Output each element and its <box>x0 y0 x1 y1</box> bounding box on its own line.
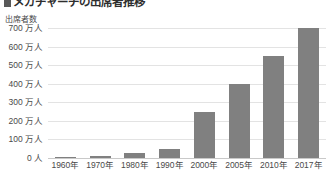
x-axis-tick-label: 2000年 <box>187 161 222 170</box>
gridline <box>48 158 326 159</box>
x-axis-tick-label: 1980年 <box>118 161 153 170</box>
bar-slot <box>194 28 215 158</box>
bar-slot <box>229 28 250 158</box>
bar[interactable] <box>298 28 319 158</box>
bar-slot <box>263 28 284 158</box>
x-axis-tick-label: 2005年 <box>222 161 257 170</box>
y-axis-tick-label: 700 万人 <box>8 24 43 33</box>
bar-slot <box>298 28 319 158</box>
y-axis-tick-label: 300 万人 <box>8 98 43 107</box>
y-axis-tick-label: 0 人 <box>27 154 43 163</box>
bar-slot <box>159 28 180 158</box>
chart-title-text: メガチャーチの出席者推移 <box>13 0 145 8</box>
bar[interactable] <box>263 56 284 158</box>
x-axis-tick-label: 1970年 <box>83 161 118 170</box>
bar[interactable] <box>159 149 180 158</box>
x-axis-tick-label: 2010年 <box>257 161 292 170</box>
bar-series <box>48 28 326 158</box>
bar[interactable] <box>90 156 111 158</box>
bar-slot <box>55 28 76 158</box>
bar[interactable] <box>124 153 145 158</box>
chart-container: メガチャーチの出席者推移 出席者数 0 人100 万人200 万人300 万人4… <box>0 0 332 179</box>
bar[interactable] <box>229 84 250 158</box>
y-axis-tick-label: 200 万人 <box>8 117 43 126</box>
y-axis-tick-label: 400 万人 <box>8 79 43 88</box>
bar-slot <box>124 28 145 158</box>
plot-area: 0 人100 万人200 万人300 万人400 万人500 万人600 万人7… <box>48 28 326 158</box>
x-axis-tick-label: 2017年 <box>291 161 326 170</box>
y-axis-tick-label: 100 万人 <box>8 135 43 144</box>
bar[interactable] <box>194 112 215 158</box>
x-axis-tick-label: 1990年 <box>152 161 187 170</box>
y-axis-tick-label: 600 万人 <box>8 42 43 51</box>
bar[interactable] <box>55 157 76 158</box>
bar-slot <box>90 28 111 158</box>
chart-title: メガチャーチの出席者推移 <box>4 0 145 9</box>
x-axis-tick-label: 1960年 <box>48 161 83 170</box>
square-bullet-icon <box>4 0 11 7</box>
y-axis-tick-label: 500 万人 <box>8 61 43 70</box>
